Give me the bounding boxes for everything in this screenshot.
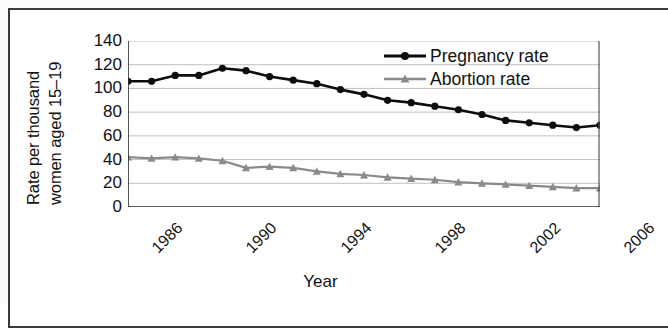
x-tick-label: 1990 xyxy=(243,219,281,257)
triangle-marker xyxy=(382,69,428,89)
legend-label: Abortion rate xyxy=(430,70,530,88)
x-axis-title: Year xyxy=(0,272,641,292)
legend-label: Pregnancy rate xyxy=(430,47,549,65)
chart-legend: Pregnancy rateAbortion rate xyxy=(382,44,607,90)
x-tick-label: 1986 xyxy=(148,219,186,257)
x-tick-label: 1994 xyxy=(337,219,375,257)
x-tick-label: 2002 xyxy=(526,219,564,257)
legend-item: Abortion rate xyxy=(382,67,607,90)
circle-marker xyxy=(382,46,428,66)
legend-item: Pregnancy rate xyxy=(382,44,607,67)
x-tick-label: 1998 xyxy=(432,219,470,257)
